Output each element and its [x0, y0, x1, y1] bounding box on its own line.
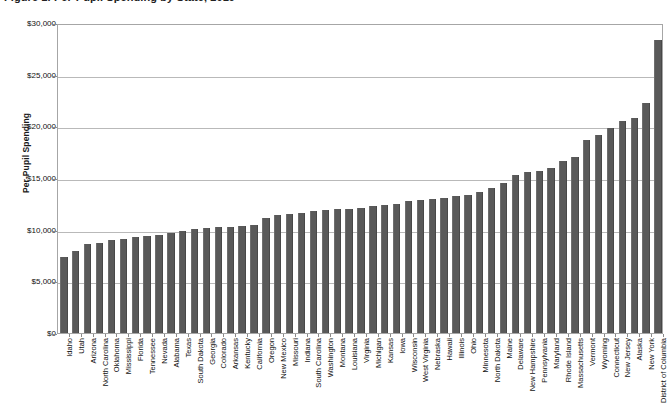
x-tick-label-text: Maine — [506, 338, 514, 358]
x-tick-label-text: South Carolina — [315, 338, 323, 388]
x-tick-label-text: Texas — [185, 338, 193, 358]
x-tick-label-text: Alaska — [636, 338, 644, 361]
x-tick-label-text: New Hampshire — [529, 338, 537, 391]
x-tick-label: Pennsylvania — [541, 293, 549, 338]
x-tick-label: Colorado — [220, 308, 228, 338]
x-tick-label: Hawaii — [446, 315, 454, 338]
x-tick-label: District of Columbia — [660, 273, 668, 338]
bar — [464, 195, 471, 333]
x-tick-label: Maryland — [553, 307, 561, 338]
x-tick-label: Arizona — [90, 313, 98, 338]
x-tick-label-text: Hawaii — [446, 338, 454, 361]
x-tick-label-text: Wyoming — [601, 338, 609, 369]
x-tick-label-text: North Carolina — [102, 338, 110, 386]
x-tick-label-text: Georgia — [209, 338, 217, 365]
x-tick-label: Maine — [506, 318, 514, 338]
x-tick-label-text: Montana — [339, 338, 347, 367]
x-tick-label-text: New Mexico — [280, 338, 288, 379]
x-tick-label-text: West Virginia — [422, 338, 430, 382]
x-tick-label: Louisiana — [351, 306, 359, 338]
per-pupil-spending-bar-chart: Figure 1. Per-Pupil Spending by State, 2… — [0, 0, 670, 413]
x-tick-label-text: South Dakota — [197, 338, 205, 383]
x-tick-label-text: Alabama — [173, 338, 181, 368]
x-tick-label: Delaware — [517, 306, 525, 338]
bar — [595, 135, 602, 333]
x-axis-labels: IdahoUtahArizonaNorth CarolinaOklahomaMi… — [57, 334, 663, 413]
x-tick-label: California — [256, 306, 264, 338]
x-tick-label-text: Nebraska — [434, 338, 442, 370]
y-tick-label: $30,000 — [0, 19, 56, 28]
x-tick-label-text: North Dakota — [494, 338, 502, 382]
x-tick-label: Iowa — [399, 322, 407, 338]
x-tick-label: Oregon — [268, 313, 276, 338]
x-tick-label: Kansas — [387, 313, 395, 338]
y-tick-label: $0 — [0, 329, 56, 338]
x-tick-label: Tennessee — [149, 302, 157, 338]
x-tick-label: New Hampshire — [529, 285, 537, 338]
y-tick-label: $10,000 — [0, 226, 56, 235]
x-tick-label-text: Wisconsin — [411, 338, 419, 372]
x-tick-label: Montana — [339, 309, 347, 338]
x-tick-label-text: Oklahoma — [113, 338, 121, 372]
x-tick-label-text: Arkansas — [232, 338, 240, 369]
x-tick-label-text: Arizona — [90, 338, 98, 363]
x-tick-label-text: Pennsylvania — [541, 338, 549, 383]
x-tick-label: Nebraska — [434, 306, 442, 338]
x-tick-label-text: New York — [648, 338, 656, 370]
x-tick-label: Alabama — [173, 308, 181, 338]
x-tick-label: Oklahoma — [113, 304, 121, 338]
x-tick-label-text: Indiana — [304, 338, 312, 363]
x-tick-label-text: Ohio — [470, 338, 478, 354]
x-tick-label: South Dakota — [197, 293, 205, 338]
x-tick-label-text: Nevada — [161, 338, 169, 364]
x-tick-label: Texas — [185, 318, 193, 338]
x-tick-label-text: New Jersey — [624, 338, 632, 377]
x-tick-label-text: Michigan — [375, 338, 383, 368]
x-tick-label: New Mexico — [280, 297, 288, 338]
x-tick-label: North Carolina — [102, 290, 110, 338]
x-tick-label: Missouri — [292, 310, 300, 338]
plot-area — [57, 24, 663, 334]
x-tick-label-text: District of Columbia — [660, 338, 668, 403]
x-tick-label: New York — [648, 306, 656, 338]
y-tick-label: $25,000 — [0, 71, 56, 80]
x-tick-label-text: Vermont — [589, 338, 597, 366]
x-tick-label: Nevada — [161, 312, 169, 338]
x-tick-label-text: Washington — [327, 338, 335, 377]
x-tick-label-text: Iowa — [399, 338, 407, 354]
x-tick-label-text: Virginia — [363, 338, 371, 363]
x-tick-label: Michigan — [375, 308, 383, 338]
x-tick-label: Wisconsin — [411, 304, 419, 338]
x-tick-label-text: Tennessee — [149, 338, 157, 374]
x-tick-label: Indiana — [304, 313, 312, 338]
x-tick-label-text: Idaho — [66, 338, 74, 357]
x-tick-label: New Jersey — [624, 299, 632, 338]
x-tick-label: Arkansas — [232, 307, 240, 338]
x-tick-label: South Carolina — [315, 288, 323, 338]
x-tick-label: Kentucky — [244, 307, 252, 338]
x-tick-label: West Virginia — [422, 294, 430, 338]
x-tick-label-text: Delaware — [517, 338, 525, 370]
x-tick-label-text: Massachusetts — [577, 338, 585, 388]
bar — [452, 196, 459, 333]
x-tick-label-text: Utah — [78, 338, 86, 354]
x-tick-label: Alaska — [636, 315, 644, 338]
x-tick-label-text: Minnesota — [482, 338, 490, 373]
x-tick-label-text: Colorado — [220, 338, 228, 368]
y-tick-label: $15,000 — [0, 174, 56, 183]
x-tick-label-text: Missouri — [292, 338, 300, 366]
x-tick-label: Utah — [78, 322, 86, 338]
x-tick-label-text: Maryland — [553, 338, 561, 369]
y-tick-label: $20,000 — [0, 122, 56, 131]
x-tick-label: Idaho — [66, 319, 74, 338]
x-tick-label: Massachusetts — [577, 288, 585, 338]
x-tick-label: Mississippi — [125, 302, 133, 338]
x-tick-label-text: Kentucky — [244, 338, 252, 369]
bars-layer — [58, 25, 662, 333]
x-tick-label: Minnesota — [482, 303, 490, 338]
x-tick-label: Vermont — [589, 310, 597, 338]
x-tick-label-text: Connecticut — [613, 338, 621, 378]
x-tick-label: Illinois — [458, 317, 466, 338]
x-tick-label-text: Florida — [137, 338, 145, 361]
y-axis-title: Per-Pupil Spending — [21, 83, 31, 223]
